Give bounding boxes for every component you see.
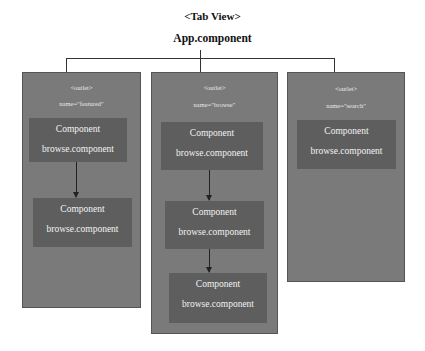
outlet-name: name="featured" (23, 100, 140, 107)
component-box: Component browse.component (165, 201, 264, 249)
component-label: Component (33, 204, 132, 214)
connector-drop-featured (66, 58, 67, 72)
outlet-tag: <outlet> (288, 85, 404, 92)
root-component-label: App.component (0, 32, 425, 44)
component-file: browse.component (29, 144, 127, 154)
component-label: Component (161, 128, 263, 138)
component-file: browse.component (165, 227, 264, 237)
component-label: Component (169, 279, 267, 289)
component-label: Component (165, 207, 264, 217)
diagram-title: <Tab View> (0, 10, 425, 22)
component-box: Component browse.component (33, 198, 132, 247)
outlet-name: name="browse" (152, 101, 277, 108)
component-label: Component (29, 124, 127, 134)
component-file: browse.component (297, 146, 396, 156)
component-box: Component browse.component (169, 273, 267, 323)
outlet-name: name="search" (288, 102, 404, 109)
component-box: Component browse.component (161, 122, 263, 170)
connector-drop-search (334, 58, 335, 72)
outlet-browse: <outlet> name="browse" Component browse.… (151, 72, 278, 334)
outlet-featured: <outlet> name="featured" Component brows… (22, 72, 141, 308)
arrow-down-icon (76, 162, 77, 197)
component-box: Component browse.component (297, 120, 396, 169)
component-file: browse.component (169, 299, 267, 309)
component-box: Component browse.component (29, 118, 127, 162)
outlet-tag: <outlet> (152, 84, 277, 91)
outlet-search: <outlet> name="search" Component browse.… (287, 72, 405, 282)
component-label: Component (297, 126, 396, 136)
outlet-tag: <outlet> (23, 84, 140, 91)
component-file: browse.component (161, 148, 263, 158)
connector-drop-browse (200, 58, 201, 72)
arrow-down-icon (209, 249, 210, 272)
arrow-down-icon (209, 170, 210, 200)
component-file: browse.component (33, 224, 132, 234)
